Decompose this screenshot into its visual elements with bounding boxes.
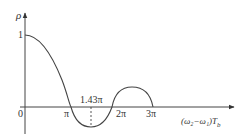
x-tick-2pi: 2π xyxy=(116,109,126,119)
y-tick-1: 1 xyxy=(18,30,23,40)
y-axis-label: ρ xyxy=(16,10,21,20)
x-axis-label-main: (ω₂−ω₁)T xyxy=(181,116,217,126)
x-axis-label: (ω₂−ω₁)Tb xyxy=(181,116,221,130)
x-tick-3pi: 3π xyxy=(146,109,156,119)
min-marker-label: 1.43π xyxy=(80,95,103,105)
rho-curve xyxy=(25,35,153,127)
x-axis-label-sub: b xyxy=(217,121,221,129)
x-tick-pi: π xyxy=(64,109,69,119)
origin-label: 0 xyxy=(18,109,23,119)
